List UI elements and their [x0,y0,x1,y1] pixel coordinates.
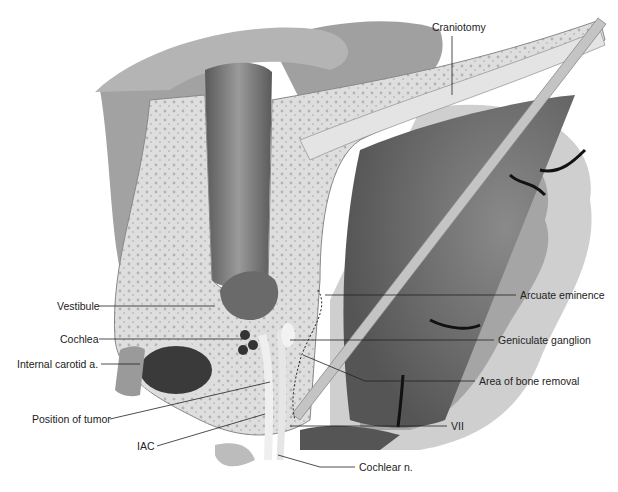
label-cochlear-n: Cochlear n. [359,461,413,473]
external-auditory-canal [205,63,272,288]
internal-carotid [138,344,214,396]
label-internal-carotid: Internal carotid a. [17,358,98,370]
label-area-of-bone-removal: Area of bone removal [479,375,579,387]
label-iac: IAC [137,440,155,452]
facial-nerve [280,330,283,460]
label-vii: VII [451,420,464,432]
label-position-of-tumor: Position of tumor [32,413,111,425]
label-vestibule: Vestibule [57,300,100,312]
label-craniotomy: Craniotomy [432,21,486,33]
label-cochlea: Cochlea [60,333,99,345]
label-arcuate-eminence: Arcuate eminence [520,289,605,301]
label-geniculate-ganglion: Geniculate ganglion [498,334,591,346]
geniculate-ganglion [281,323,295,347]
anatomy-figure: Craniotomy Vestibule Cochlea Internal ca… [0,0,618,492]
